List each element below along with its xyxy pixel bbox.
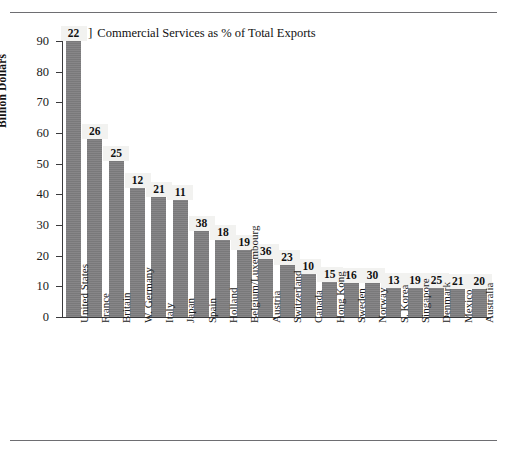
x-axis-category-label: Austria [270, 291, 282, 323]
x-axis-category-label: Sweden [355, 288, 367, 323]
bar-value-label: 11 [167, 185, 193, 200]
x-axis-category-label: France [99, 293, 111, 323]
x-axis-category-label: Australia [483, 283, 495, 323]
y-tick-label: 0 [9, 308, 49, 326]
legend-label: Commercial Services as % of Total Export… [97, 26, 315, 40]
x-axis-category-label: Canada [312, 290, 324, 323]
y-tick-label: 40 [9, 185, 49, 203]
y-tick-label: 30 [9, 216, 49, 234]
legend-bracket-marker: ] [88, 25, 92, 40]
x-axis-category-label: Norway [376, 288, 388, 323]
x-axis-category-label: Italy [163, 303, 175, 323]
x-axis-category-label: Singapore [419, 278, 431, 323]
y-tick-label: 10 [9, 277, 49, 295]
x-axis-category-label: Spain [206, 298, 218, 323]
bar-value-label: 25 [103, 146, 129, 161]
x-axis-category-label: Hong Kong [334, 271, 346, 323]
x-axis-category-label: United States [78, 264, 90, 323]
x-axis-category-label: Denmark [440, 282, 452, 323]
x-axis-category-label: Mexico [462, 289, 474, 323]
y-axis-title: Billion Dollars [0, 54, 8, 128]
chart-figure: Billion Dollars 9080706050403020100 ]Com… [0, 0, 506, 457]
x-axis-category-label: S. Korea [398, 285, 410, 324]
x-axis-category-label: W. Germany [142, 267, 154, 323]
x-axis-category-label: Holland [227, 288, 239, 323]
y-tick-label: 20 [9, 247, 49, 265]
x-axis-category-label: Britain [120, 292, 132, 323]
top-divider-rule [10, 12, 497, 13]
y-tick-label: 60 [9, 124, 49, 142]
y-tick-label: 50 [9, 155, 49, 173]
x-axis-category-label: Belgium/Luxembourg [248, 225, 260, 323]
x-axis-category-label: Switzerland [291, 270, 303, 323]
y-tick-label: 90 [9, 32, 49, 50]
y-tick-mark [56, 317, 62, 318]
x-axis-category-label: Japan [184, 298, 196, 323]
y-tick-label: 70 [9, 93, 49, 111]
bottom-divider-rule [10, 440, 497, 441]
y-tick-label: 80 [9, 63, 49, 81]
bar-value-label: 26 [82, 124, 108, 139]
chart-legend: ]Commercial Services as % of Total Expor… [88, 25, 316, 41]
bar-value-label: 22 [61, 26, 87, 41]
